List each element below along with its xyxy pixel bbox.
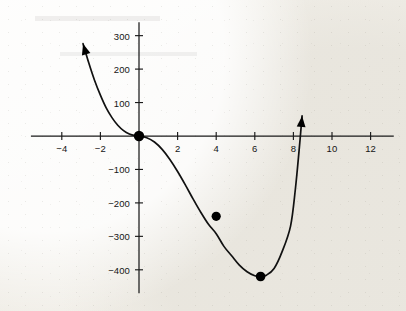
y-tick-label: 300 [114,30,130,41]
graph-canvas [0,0,406,311]
x-tick-label: 4 [213,143,218,154]
data-point-marker[interactable] [134,131,144,141]
graph-figure: −4−224681012300200100−100−200−300−400 [0,0,406,311]
data-point-marker[interactable] [212,212,221,221]
x-tick-label: 6 [252,143,257,154]
axes-layer [31,22,394,293]
y-tick-label: −100 [108,164,130,175]
x-tick-label: −4 [56,143,67,154]
curve-arrowhead-left [82,44,90,56]
x-tick-label: −2 [95,143,106,154]
data-points-layer [134,131,266,281]
x-tick-label: 2 [175,143,180,154]
y-tick-label: −400 [108,264,130,275]
y-tick-label: 200 [114,64,130,75]
y-tick-label: 100 [114,97,130,108]
y-tick-label: −200 [108,197,130,208]
data-point-marker[interactable] [256,272,266,282]
x-tick-label: 10 [327,143,338,154]
x-tick-label: 12 [365,143,376,154]
x-tick-label: 8 [291,143,296,154]
y-tick-label: −300 [108,231,130,242]
